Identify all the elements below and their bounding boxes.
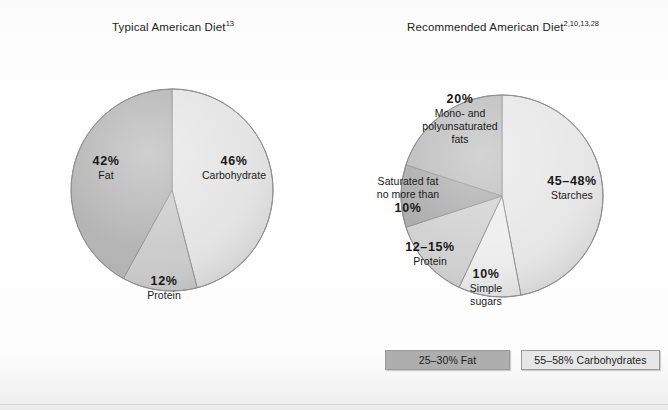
- legend: 25–30% Fat 55–58% Carbohydrates: [385, 350, 660, 370]
- slice-label-unsaturated-fats-line3: fats: [396, 133, 524, 146]
- pie-chart-typical-svg: [68, 86, 278, 296]
- pie-shading-typical: [71, 89, 273, 291]
- slice-label-starches: 45–48% Starches: [520, 174, 624, 202]
- figure-panel: Typical American Diet13 42% Fat 46% Carb: [0, 0, 668, 410]
- slice-label-carbohydrate-name: Carbohydrate: [182, 169, 286, 182]
- legend-item-carbohydrates-label: 55–58% Carbohydrates: [534, 354, 646, 366]
- legend-item-fat: 25–30% Fat: [385, 350, 510, 370]
- legend-item-carbohydrates: 55–58% Carbohydrates: [521, 350, 660, 370]
- slice-label-simple-sugars: 10% Simple sugars: [455, 267, 517, 308]
- slice-label-protein-left-value: 12%: [131, 274, 197, 289]
- chart-title-typical-superscript: 13: [226, 19, 234, 28]
- slice-label-fat-name: Fat: [68, 169, 144, 182]
- slice-label-simple-sugars-line2: sugars: [455, 295, 517, 308]
- slice-label-simple-sugars-value: 10%: [455, 267, 517, 282]
- slice-label-protein-left: 12% Protein: [131, 274, 197, 302]
- bottom-divider: [0, 404, 668, 405]
- slice-label-fat: 42% Fat: [68, 154, 144, 182]
- slice-label-unsaturated-fats-value: 20%: [396, 92, 524, 107]
- slice-label-carbohydrate: 46% Carbohydrate: [182, 154, 286, 182]
- slice-label-protein-right: 12–15% Protein: [388, 240, 472, 268]
- chart-title-recommended-superscript: 2,10,13,28: [564, 19, 599, 28]
- pie-chart-typical-american-diet: [68, 86, 278, 296]
- slice-label-protein-right-value: 12–15%: [388, 240, 472, 255]
- slice-label-fat-value: 42%: [68, 154, 144, 169]
- chart-title-recommended: Recommended American Diet2,10,13,28: [358, 19, 648, 33]
- chart-title-recommended-text: Recommended American Diet: [407, 21, 564, 33]
- slice-label-unsaturated-fats-line1: Mono- and: [396, 107, 524, 120]
- chart-title-typical-text: Typical American Diet: [112, 21, 226, 33]
- slice-label-saturated-fat-value: 10%: [352, 201, 464, 216]
- slice-label-saturated-fat-line1: Saturated fat: [352, 175, 464, 188]
- chart-title-typical: Typical American Diet13: [48, 19, 298, 33]
- slice-label-unsaturated-fats: 20% Mono- and polyunsaturated fats: [396, 92, 524, 146]
- legend-item-fat-label: 25–30% Fat: [419, 354, 477, 366]
- slice-label-simple-sugars-line1: Simple: [455, 282, 517, 295]
- slice-label-unsaturated-fats-line2: polyunsaturated: [396, 120, 524, 133]
- slice-label-saturated-fat-line2: no more than: [352, 188, 464, 201]
- slice-label-starches-value: 45–48%: [520, 174, 624, 189]
- slice-label-saturated-fat: Saturated fat no more than 10%: [352, 175, 464, 216]
- slice-label-carbohydrate-value: 46%: [182, 154, 286, 169]
- slice-label-starches-name: Starches: [520, 189, 624, 202]
- slice-label-protein-left-name: Protein: [131, 289, 197, 302]
